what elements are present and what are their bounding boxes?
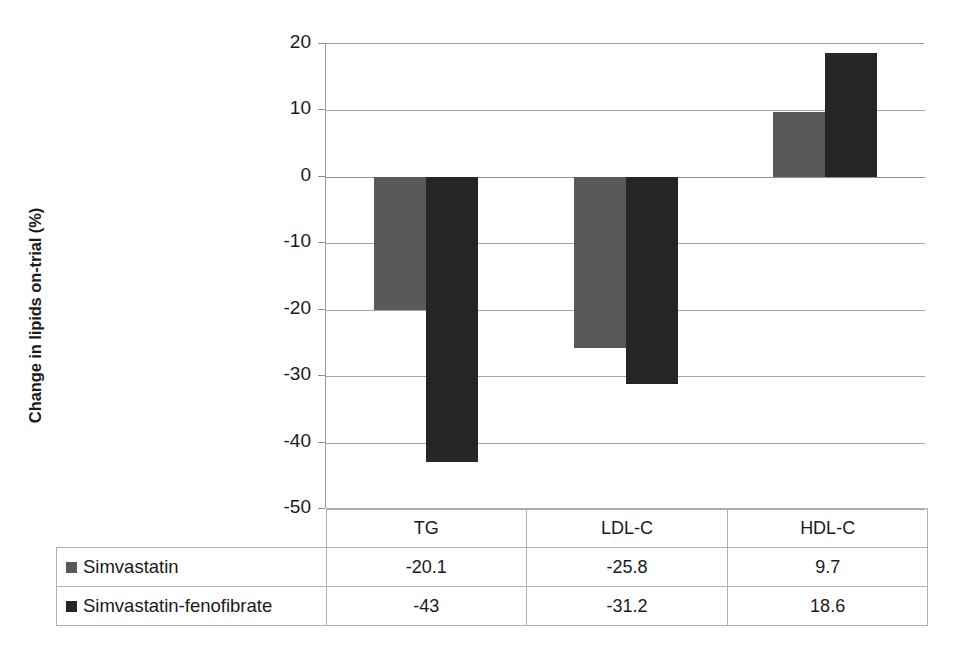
column-header-1: LDL-C xyxy=(527,509,728,548)
bar-hdl-c-simvastatin xyxy=(773,112,825,176)
y-tick-mark-20 xyxy=(318,43,325,44)
y-tick-label--30: -30 xyxy=(0,363,311,385)
legend-label-text: Simvastatin-fenofibrate xyxy=(83,595,272,616)
y-tick-mark--40 xyxy=(318,442,325,443)
cell-simvastatin-ldl-c: -25.8 xyxy=(527,548,728,587)
y-tick-label-0: 0 xyxy=(0,164,311,186)
cell-simvastatin-fenofibrate-tg: -43 xyxy=(326,587,527,626)
legend-label-text: Simvastatin xyxy=(83,556,179,577)
y-tick-label--40: -40 xyxy=(0,430,311,452)
y-tick-label-10: 10 xyxy=(0,97,311,119)
y-tick-mark--10 xyxy=(318,242,325,243)
y-tick-mark--30 xyxy=(318,375,325,376)
y-tick-label--20: -20 xyxy=(0,297,311,319)
table-row: Simvastatin -20.1 -25.8 9.7 xyxy=(57,548,928,587)
bar-tg-simvastatin xyxy=(374,177,426,311)
data-table: TG LDL-C HDL-C Simvastatin -20.1 -25.8 9… xyxy=(56,508,928,626)
bar-tg-simvastatin-fenofibrate xyxy=(426,177,478,463)
column-header-0: TG xyxy=(326,509,527,548)
legend-row-label-simvastatin-fenofibrate: Simvastatin-fenofibrate xyxy=(57,587,327,626)
bar-ldl-c-simvastatin-fenofibrate xyxy=(626,177,678,384)
plot-area xyxy=(325,43,924,508)
gridline--40 xyxy=(326,443,925,444)
cell-simvastatin-tg: -20.1 xyxy=(326,548,527,587)
bar-hdl-c-simvastatin-fenofibrate xyxy=(825,53,877,177)
y-tick-label--10: -10 xyxy=(0,230,311,252)
legend-swatch-simvastatin-fenofibrate xyxy=(66,601,77,612)
y-tick-label-20: 20 xyxy=(0,31,311,53)
y-tick-mark--20 xyxy=(318,309,325,310)
bar-ldl-c-simvastatin xyxy=(574,177,626,348)
cell-simvastatin-hdl-c: 9.7 xyxy=(727,548,928,587)
y-tick-mark-0 xyxy=(318,176,325,177)
column-header-2: HDL-C xyxy=(727,509,928,548)
y-tick-mark-10 xyxy=(318,109,325,110)
chart-root: Change in lipids on-trial (%) 20100-10-2… xyxy=(0,0,969,670)
table-header-row: TG LDL-C HDL-C xyxy=(57,509,928,548)
cell-simvastatin-fenofibrate-ldl-c: -31.2 xyxy=(527,587,728,626)
table-corner-cell xyxy=(57,509,327,548)
legend-swatch-simvastatin xyxy=(66,562,77,573)
cell-simvastatin-fenofibrate-hdl-c: 18.6 xyxy=(727,587,928,626)
legend-row-label-simvastatin: Simvastatin xyxy=(57,548,327,587)
table-row: Simvastatin-fenofibrate -43 -31.2 18.6 xyxy=(57,587,928,626)
